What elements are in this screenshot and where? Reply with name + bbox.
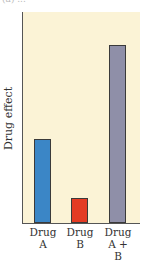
x-axis	[22, 223, 140, 224]
x-tick-label-drug-a: Drug A	[28, 226, 58, 250]
x-tick-line2: A + B	[103, 238, 133, 262]
x-tick-line2: B	[65, 238, 95, 250]
x-tick-label-drug-a-plus-b: Drug A + B	[103, 226, 133, 262]
bar-drug-b	[71, 198, 88, 223]
x-tick-line1: Drug	[65, 226, 95, 238]
x-tick-line2: A	[28, 238, 58, 250]
x-tick-label-drug-b: Drug B	[65, 226, 95, 250]
y-axis-label: Drug effect	[2, 87, 15, 151]
bar-drug-a	[34, 139, 51, 223]
y-axis	[22, 12, 23, 224]
bar-drug-a-plus-b	[109, 45, 126, 223]
x-tick-line1: Drug	[103, 226, 133, 238]
x-tick-line1: Drug	[28, 226, 58, 238]
figure-caption: (a) ...	[2, 0, 26, 4]
